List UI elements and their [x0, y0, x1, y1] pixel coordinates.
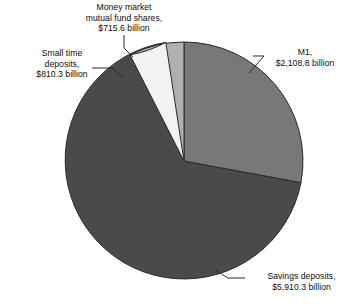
slice-label-money-market-mutual-fund-shares: Money market mutual fund shares, $715.6 …	[60, 2, 188, 34]
slice-label-savings-deposits: Savings deposits, $5,910.3 billion	[248, 271, 355, 292]
pie-chart: Money market mutual fund shares, $715.6 …	[0, 0, 355, 304]
pie-chart-svg	[0, 0, 355, 304]
slice-label-m1: M1, $2,108.8 billion	[256, 47, 354, 68]
slice-label-small-time-deposits: Small time deposits, $810.3 billion	[8, 48, 116, 80]
